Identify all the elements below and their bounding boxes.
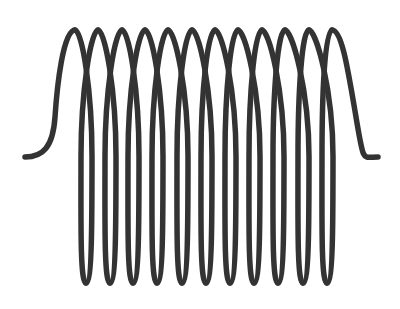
- coil-spring-figure: Helical coil spring illustration with 12…: [0, 0, 400, 309]
- coil-left-lead: [25, 30, 75, 157]
- coil-spring-icon: [0, 0, 400, 309]
- coil-right-lead: [332, 30, 378, 157]
